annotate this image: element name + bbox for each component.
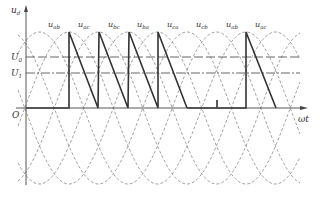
waveform-label: uba [137, 20, 149, 30]
rectifier-waveform-diagram: ud ωt O U0 U1 uabuacubcubaucaucbuabuac [0, 0, 320, 202]
waveform-label: uab [48, 20, 60, 30]
waveform-label: ucb [196, 20, 208, 30]
waveform-label: uac [255, 20, 267, 30]
output-waveform [26, 32, 276, 108]
axes [16, 5, 308, 185]
y-axis-arrow-icon [24, 5, 28, 12]
y-axis-label: ud [11, 5, 21, 16]
x-axis-label: ωt [298, 114, 309, 124]
level-label-u0: U0 [11, 52, 23, 63]
waveform-label: uab [226, 20, 238, 30]
waveform-labels: uabuacubcubaucaucbuabuac [48, 20, 267, 30]
origin-label: O [12, 110, 20, 120]
x-axis-arrow-icon [300, 106, 308, 110]
level-label-u1: U1 [11, 68, 22, 79]
waveform-label: uca [167, 20, 179, 30]
waveform-label: ubc [108, 20, 120, 30]
waveform-label: uac [78, 20, 90, 30]
output-tail [187, 32, 276, 108]
